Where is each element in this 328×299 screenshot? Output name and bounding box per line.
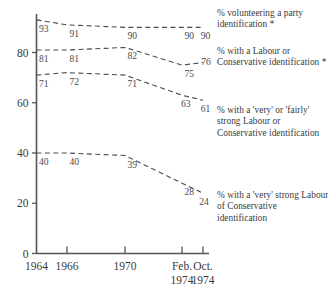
- y-tick-label: 60: [17, 97, 29, 109]
- series-line-4: [37, 153, 204, 193]
- data-point-label: 61: [201, 103, 211, 114]
- chart-page: 020406080196419661970Feb.1974Oct.1974 93…: [0, 0, 328, 299]
- y-tick-label: 20: [17, 197, 29, 209]
- x-tick-label: 1974: [171, 274, 194, 286]
- data-point-label: 72: [70, 76, 80, 87]
- y-tick-label: 0: [23, 248, 29, 260]
- data-point-label: 82: [128, 50, 138, 61]
- data-point-label: 39: [128, 159, 138, 170]
- data-point-label: 24: [199, 196, 209, 207]
- x-tick-label: 1966: [56, 260, 79, 272]
- data-point-label: 90: [128, 30, 138, 41]
- data-point-label: 40: [39, 156, 49, 167]
- legend-entry-1: % volunteering a party identification *: [217, 8, 328, 31]
- y-tick-label: 80: [17, 47, 29, 59]
- data-point-label: 28: [185, 186, 195, 197]
- x-tick-label: 1974: [192, 274, 215, 286]
- data-point-label: 40: [70, 156, 80, 167]
- y-tick-label: 40: [17, 147, 29, 159]
- x-tick-label: Oct.: [193, 260, 213, 272]
- chart-series: [37, 20, 204, 193]
- data-point-label: 81: [70, 53, 80, 64]
- x-tick-label: 1970: [114, 260, 137, 272]
- legend-entry-2: % with a Labour or Conservative identifi…: [217, 46, 328, 69]
- legend-entry-4: % with a 'very' strong Labour of Conserv…: [217, 190, 328, 224]
- data-point-label: 91: [70, 28, 80, 39]
- data-point-label: 90: [201, 30, 211, 41]
- legend-entry-3: % with a 'very' or 'fairly' strong Labou…: [217, 105, 328, 139]
- data-point-label: 71: [128, 78, 138, 89]
- data-point-label: 93: [39, 23, 49, 34]
- x-tick-label: Feb.: [172, 260, 192, 272]
- data-point-label: 63: [181, 98, 191, 109]
- data-point-label: 75: [185, 68, 195, 79]
- line-chart: 020406080196419661970Feb.1974Oct.1974 93…: [0, 0, 328, 299]
- series-line-1: [37, 20, 204, 28]
- series-line-2: [37, 47, 204, 65]
- x-tick-label: 1964: [25, 260, 48, 272]
- data-point-label: 76: [201, 56, 211, 67]
- series-line-3: [37, 73, 204, 101]
- data-point-label: 81: [39, 53, 49, 64]
- data-point-label: 90: [185, 30, 195, 41]
- chart-axes: [32, 14, 209, 254]
- data-point-label: 71: [39, 78, 49, 89]
